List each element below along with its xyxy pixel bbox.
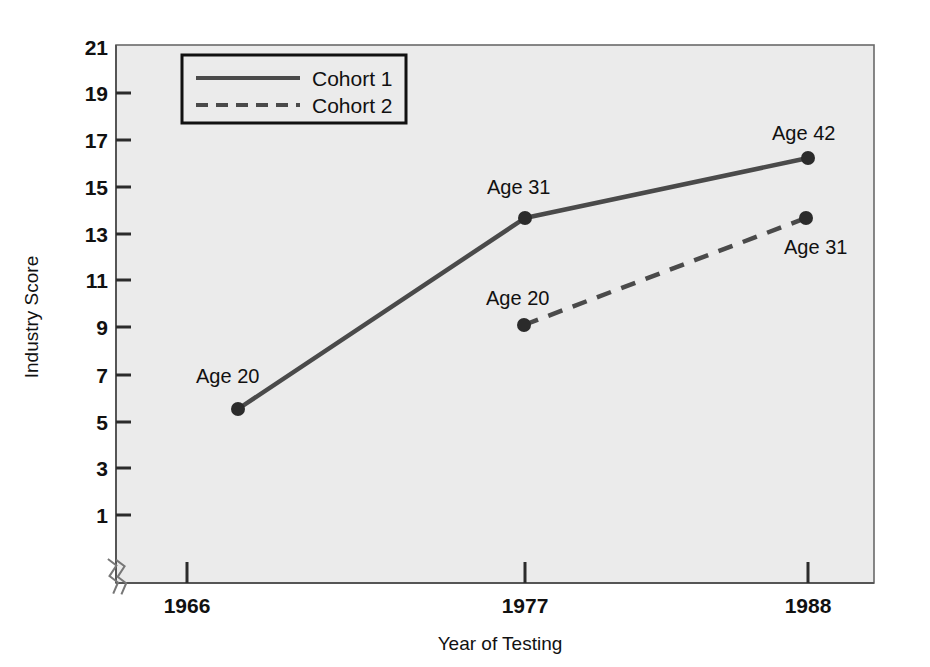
x-tick-label-1988: 1988 <box>785 594 832 617</box>
x-tick-label-1977: 1977 <box>502 594 549 617</box>
y-axis-title: Industry Score <box>21 256 42 379</box>
data-point-cohort-2-1988[interactable] <box>799 211 813 225</box>
legend-label-cohort-2: Cohort 2 <box>312 94 393 117</box>
y-tick-label-9: 9 <box>96 316 108 339</box>
y-tick-label-13: 13 <box>85 223 108 246</box>
y-tick-label-15: 15 <box>85 176 109 199</box>
annotation-cohort-1-age-42: Age 42 <box>772 122 835 144</box>
data-point-cohort-2-1977[interactable] <box>517 318 531 332</box>
y-tick-label-17: 17 <box>85 129 108 152</box>
plot-area <box>116 45 874 583</box>
x-tick-label-1966: 1966 <box>164 594 211 617</box>
chart-legend: Cohort 1 Cohort 2 <box>182 55 406 123</box>
y-tick-label-1: 1 <box>96 504 108 527</box>
annotation-cohort-1-age-31: Age 31 <box>487 176 550 198</box>
y-tick-label-21: 21 <box>85 36 109 59</box>
data-point-cohort-1-1988[interactable] <box>801 151 815 165</box>
annotation-cohort-1-age-20: Age 20 <box>196 365 259 387</box>
x-axis-title: Year of Testing <box>438 633 563 654</box>
annotation-cohort-2-age-20: Age 20 <box>486 287 549 309</box>
y-tick-label-7: 7 <box>96 364 108 387</box>
y-tick-label-5: 5 <box>96 411 108 434</box>
legend-label-cohort-1: Cohort 1 <box>312 67 393 90</box>
line-chart: 21 19 17 15 13 11 9 7 5 3 1 1966 1977 19… <box>0 0 930 667</box>
chart-figure: 21 19 17 15 13 11 9 7 5 3 1 1966 1977 19… <box>0 0 930 667</box>
y-tick-label-3: 3 <box>96 457 108 480</box>
data-point-cohort-1-1966[interactable] <box>231 402 245 416</box>
y-tick-label-19: 19 <box>85 82 108 105</box>
annotation-cohort-2-age-31: Age 31 <box>784 236 847 258</box>
data-point-cohort-1-1977[interactable] <box>518 211 532 225</box>
y-tick-label-11: 11 <box>86 269 109 292</box>
